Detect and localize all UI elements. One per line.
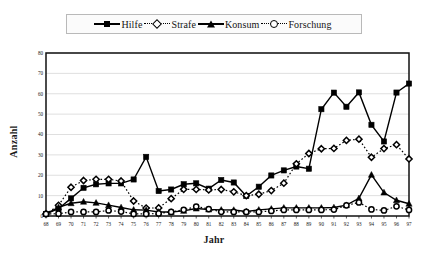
circle-marker: [119, 209, 124, 214]
x-tick-label: 95: [381, 221, 387, 227]
square-marker: [269, 173, 274, 178]
y-tick-label: 40: [38, 131, 44, 137]
circle-marker: [81, 209, 86, 214]
x-tick-label: 74: [119, 221, 125, 227]
square-marker: [369, 122, 374, 127]
legend-line-strafe: [144, 19, 170, 29]
square-marker: [381, 139, 386, 144]
diamond-marker: [268, 187, 274, 193]
circle-marker: [231, 209, 236, 214]
y-tick-label: 70: [38, 70, 44, 76]
x-tick-label: 88: [294, 221, 300, 227]
circle-marker: [344, 203, 349, 208]
square-marker: [281, 168, 286, 173]
y-tick-label: 10: [38, 193, 44, 199]
square-marker: [194, 181, 199, 186]
circle-marker: [281, 207, 286, 212]
circle-marker: [319, 207, 324, 212]
square-marker: [356, 90, 361, 95]
square-marker: [406, 81, 411, 86]
line-chart-plot: 0102030405060708068697071727374757677787…: [0, 44, 428, 239]
legend-label-konsum: Konsum: [224, 19, 262, 30]
circle-marker: [206, 206, 211, 211]
circle-marker: [356, 200, 361, 205]
x-tick-label: 76: [144, 221, 150, 227]
circle-marker: [131, 211, 136, 216]
diamond-marker: [231, 189, 237, 195]
circle-marker: [331, 207, 336, 212]
square-marker: [256, 184, 261, 189]
x-tick-label: 68: [43, 221, 49, 227]
circle-marker: [244, 209, 249, 214]
x-tick-label: 89: [306, 221, 312, 227]
diamond-marker: [68, 184, 74, 190]
legend-label-hilfe: Hilfe: [120, 19, 144, 30]
circle-marker: [93, 209, 98, 214]
x-tick-label: 82: [219, 221, 225, 227]
diamond-marker-icon: [153, 19, 163, 29]
chart-legend: Hilfe Strafe Konsum Forschung: [66, 14, 362, 34]
circle-marker: [144, 211, 149, 216]
legend-label-forschung: Forschung: [287, 19, 333, 30]
circle-marker: [68, 209, 73, 214]
y-tick-label: 50: [38, 111, 44, 117]
x-tick-label: 71: [81, 221, 87, 227]
circle-marker-icon: [270, 20, 278, 28]
triangle-marker: [368, 172, 374, 178]
legend-line-hilfe: [94, 19, 120, 29]
x-tick-label: 97: [406, 221, 412, 227]
y-tick-label: 60: [38, 91, 44, 97]
circle-marker: [169, 209, 174, 214]
legend-item-konsum: Konsum: [198, 15, 262, 33]
triangle-marker-icon: [207, 21, 215, 28]
series-line: [46, 139, 409, 214]
circle-marker: [156, 211, 161, 216]
x-tick-label: 78: [169, 221, 175, 227]
x-tick-label: 70: [68, 221, 74, 227]
square-marker: [156, 188, 161, 193]
x-tick-label: 77: [156, 221, 162, 227]
circle-marker: [256, 209, 261, 214]
diamond-marker: [256, 191, 262, 197]
circle-marker: [194, 204, 199, 209]
x-tick-label: 80: [194, 221, 200, 227]
x-tick-label: 69: [56, 221, 62, 227]
circle-marker: [381, 208, 386, 213]
circle-marker: [269, 208, 274, 213]
legend-line-forschung: [261, 19, 287, 29]
legend-label-strafe: Strafe: [170, 19, 197, 30]
circle-marker: [43, 211, 48, 216]
square-marker: [219, 177, 224, 182]
x-tick-label: 92: [344, 221, 350, 227]
circle-marker: [106, 208, 111, 213]
square-marker: [231, 180, 236, 185]
chart-screenshot: Hilfe Strafe Konsum Forschung Anzahl: [0, 0, 428, 260]
chart-container: Anzahl Jahr 0102030405060708068697071727…: [0, 44, 428, 260]
legend-item-forschung: Forschung: [261, 15, 333, 33]
x-tick-label: 86: [269, 221, 275, 227]
x-tick-label: 83: [231, 221, 237, 227]
legend-item-hilfe: Hilfe: [94, 15, 144, 33]
x-tick-label: 75: [131, 221, 137, 227]
diamond-marker: [318, 146, 324, 152]
square-marker: [344, 104, 349, 109]
y-tick-label: 20: [38, 172, 44, 178]
square-marker: [394, 90, 399, 95]
diamond-marker: [331, 145, 337, 151]
diamond-marker: [393, 142, 399, 148]
circle-marker: [369, 207, 374, 212]
series-forschung: [43, 200, 411, 217]
y-tick-label: 80: [38, 50, 44, 56]
circle-marker: [181, 207, 186, 212]
x-tick-label: 72: [94, 221, 100, 227]
circle-marker: [306, 207, 311, 212]
square-marker: [331, 90, 336, 95]
diamond-marker: [343, 137, 349, 143]
square-marker: [319, 107, 324, 112]
legend-line-konsum: [198, 19, 224, 29]
y-tick-label: 30: [38, 152, 44, 158]
diamond-marker: [80, 177, 86, 183]
square-marker: [144, 154, 149, 159]
x-tick-label: 81: [206, 221, 212, 227]
legend-item-strafe: Strafe: [144, 15, 197, 33]
